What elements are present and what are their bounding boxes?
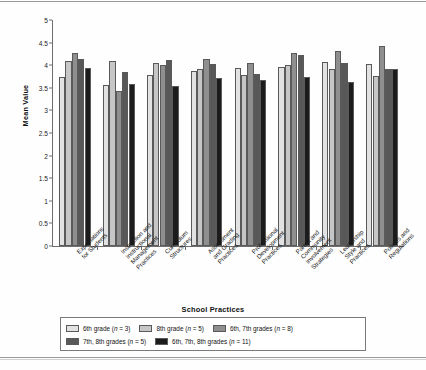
y-tick-label: 1.5 — [39, 175, 48, 182]
x-axis-title: School Practices — [6, 305, 420, 314]
y-tick-label: 0 — [44, 243, 48, 250]
y-tick-label: 0.5 — [39, 220, 48, 227]
y-tick-label: 4.5 — [39, 39, 48, 46]
legend-label: 7th, 8th grades (n = 5) — [83, 338, 146, 345]
legend-row-top: 6th grade (n = 3)8th grade (n = 5)6th, 7… — [66, 322, 360, 335]
bar — [78, 59, 84, 246]
bar — [72, 53, 78, 246]
legend-label: 8th grade (n = 5) — [156, 325, 203, 332]
legend-item: 6th, 7th grades (n = 8) — [213, 325, 293, 332]
legend-swatch — [139, 325, 152, 332]
legend-swatch — [66, 325, 79, 332]
legend-swatch — [66, 338, 79, 345]
legend-item: 7th, 8th grades (n = 5) — [66, 338, 146, 345]
legend-swatch — [213, 325, 226, 332]
bar-group — [53, 20, 97, 246]
chart-legend: 6th grade (n = 3)8th grade (n = 5)6th, 7… — [60, 317, 366, 351]
y-tick-label: 2.5 — [39, 130, 48, 137]
plot-area: Mean Value 00.511.522.533.544.55 Expecta… — [6, 6, 420, 256]
page-rule-bottom — [0, 357, 426, 358]
bar — [85, 68, 91, 246]
y-axis-title: Mean Value — [21, 61, 30, 151]
bar — [216, 78, 222, 246]
y-tick-label: 1 — [44, 197, 48, 204]
y-axis-ticks: 00.511.522.533.544.55 — [30, 20, 52, 246]
legend-label: 6th, 7th grades (n = 8) — [230, 325, 293, 332]
legend-label: 6th, 7th, 8th grades (n = 11) — [172, 338, 251, 345]
bar — [59, 77, 65, 247]
legend-item: 8th grade (n = 5) — [139, 325, 203, 332]
y-tick-label: 4 — [44, 62, 48, 69]
figure-page: Mean Value 00.511.522.533.544.55 Expecta… — [0, 0, 426, 370]
legend-row-bottom: 7th, 8th grades (n = 5)6th, 7th, 8th gra… — [66, 335, 360, 348]
y-tick-label: 3.5 — [39, 84, 48, 91]
bar — [65, 61, 71, 246]
chart-figure: Mean Value 00.511.522.533.544.55 Expecta… — [6, 6, 420, 354]
page-rule-top — [0, 1, 426, 2]
legend-swatch — [155, 338, 168, 345]
legend-item: 6th, 7th, 8th grades (n = 11) — [155, 338, 251, 345]
legend-item: 6th grade (n = 3) — [66, 325, 130, 332]
legend-label: 6th grade (n = 3) — [83, 325, 130, 332]
y-tick-label: 2 — [44, 152, 48, 159]
y-tick-label: 5 — [44, 17, 48, 24]
bar — [129, 84, 135, 246]
x-axis-category-labels: Expectations for StudentsInstruction and… — [52, 250, 404, 312]
page-rule-bottom-shadow — [0, 359, 426, 360]
y-tick-label: 3 — [44, 107, 48, 114]
